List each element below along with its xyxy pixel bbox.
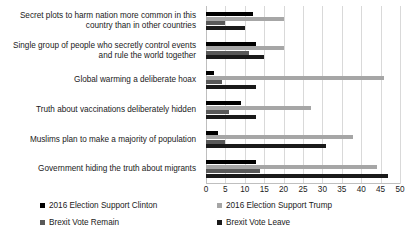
legend-swatch-icon [40, 203, 45, 208]
x-tick-label: 10 [240, 185, 249, 194]
x-tick-label: 0 [204, 185, 209, 194]
bar [206, 115, 256, 119]
x-tick-label: 20 [279, 185, 288, 194]
bar [206, 80, 222, 84]
x-tick-label: 50 [395, 185, 404, 194]
bar [206, 71, 214, 75]
x-tick-label: 15 [260, 185, 269, 194]
x-axis-tick-labels: 05101520253035404550 [206, 185, 400, 197]
bar [206, 17, 284, 21]
legend-label: 2016 Election Support Trump [226, 201, 332, 210]
category-axis-labels: Secret plots to harm nation more common … [0, 6, 200, 184]
bar [206, 174, 388, 178]
legend-label: Brexit Vote Remain [49, 218, 119, 227]
bar [206, 55, 264, 59]
grouped-bar-chart: Secret plots to harm nation more common … [0, 0, 415, 244]
bar [206, 144, 326, 148]
bar [206, 110, 229, 114]
legend-item[interactable]: 2016 Election Support Clinton [40, 201, 157, 210]
x-tick-label: 40 [357, 185, 366, 194]
category-label: Muslims plan to make a majority of popul… [0, 135, 196, 145]
category-label: Single group of people who secretly cont… [0, 41, 196, 61]
category-label: Truth about vaccinations deliberately hi… [0, 105, 196, 115]
x-tick-label: 45 [376, 185, 385, 194]
bar-groups [206, 6, 400, 184]
bar-group [206, 131, 400, 149]
category-label: Secret plots to harm nation more common … [0, 11, 196, 31]
bar [206, 140, 225, 144]
bar [206, 42, 256, 46]
bar [206, 51, 249, 55]
legend-item[interactable]: Brexit Vote Remain [40, 218, 119, 227]
bar [206, 26, 245, 30]
bar [206, 135, 353, 139]
legend-label: 2016 Election Support Clinton [49, 201, 157, 210]
category-label: Government hiding the truth about migran… [0, 164, 196, 174]
x-tick-label: 5 [223, 185, 228, 194]
bar-group [206, 101, 400, 119]
bar [206, 85, 256, 89]
legend-label: Brexit Vote Leave [226, 218, 290, 227]
bar [206, 160, 256, 164]
gridline [400, 6, 401, 184]
legend-swatch-icon [217, 203, 222, 208]
legend-item[interactable]: 2016 Election Support Trump [217, 201, 332, 210]
bar [206, 21, 225, 25]
x-tick-label: 35 [337, 185, 346, 194]
x-tick-label: 25 [298, 185, 307, 194]
category-label: Global warming a deliberate hoax [0, 75, 196, 85]
x-tick-label: 30 [318, 185, 327, 194]
bar-group [206, 160, 400, 178]
bar [206, 169, 260, 173]
bar [206, 106, 311, 110]
legend-item[interactable]: Brexit Vote Leave [217, 218, 290, 227]
legend-swatch-icon [40, 220, 45, 225]
bar [206, 165, 377, 169]
bar [206, 131, 218, 135]
bar [206, 12, 253, 16]
legend-swatch-icon [217, 220, 222, 225]
bar-group [206, 42, 400, 60]
plot-area [206, 6, 400, 184]
bar-group [206, 12, 400, 30]
bar [206, 46, 284, 50]
bar [206, 76, 384, 80]
chart-legend: 2016 Election Support Clinton2016 Electi… [40, 201, 380, 235]
x-axis-line [206, 183, 400, 184]
bar [206, 101, 241, 105]
bar-group [206, 71, 400, 89]
